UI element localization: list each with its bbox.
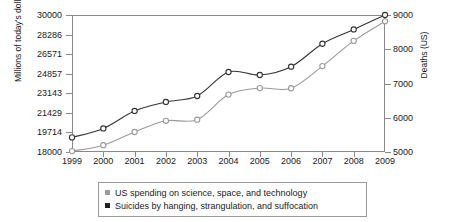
- x-tick-mark: [166, 152, 167, 157]
- series-line: [72, 15, 385, 137]
- right-tick-mark: [385, 49, 391, 50]
- x-tick-mark: [229, 152, 230, 157]
- right-tick-mark: [385, 118, 391, 119]
- data-point-marker: [382, 12, 387, 17]
- x-tick-label: 2009: [365, 156, 405, 166]
- data-point-marker: [382, 19, 387, 24]
- data-point-marker: [101, 143, 106, 148]
- chart-legend: US spending on science, space, and techn…: [98, 182, 367, 217]
- left-tick-label: 28286: [2, 30, 62, 40]
- data-point-marker: [132, 129, 137, 134]
- legend-item[interactable]: Suicides by hanging, strangulation, and …: [105, 199, 360, 212]
- legend-swatch-icon: [105, 203, 110, 208]
- data-point-marker: [257, 86, 262, 91]
- series-suicides: [69, 12, 387, 140]
- left-tick-label: 26571: [2, 49, 62, 59]
- x-tick-mark: [354, 152, 355, 157]
- series-spending: [69, 19, 387, 154]
- legend-label: Suicides by hanging, strangulation, and …: [115, 201, 318, 211]
- legend-swatch-icon: [105, 190, 110, 195]
- data-point-marker: [351, 38, 356, 43]
- data-point-marker: [351, 27, 356, 32]
- left-tick-label: 21429: [2, 108, 62, 118]
- right-tick-label: 6000: [393, 113, 443, 123]
- x-tick-mark: [197, 152, 198, 157]
- data-point-marker: [163, 99, 168, 104]
- data-point-marker: [163, 118, 168, 123]
- left-tick-label: 23143: [2, 88, 62, 98]
- data-point-marker: [69, 149, 74, 154]
- plot-area: [72, 15, 385, 152]
- data-point-marker: [69, 135, 74, 140]
- legend-item[interactable]: US spending on science, space, and techn…: [105, 186, 360, 199]
- data-point-marker: [132, 108, 137, 113]
- series-layer: [72, 15, 385, 152]
- x-tick-mark: [322, 152, 323, 157]
- right-tick-label: 8000: [393, 44, 443, 54]
- data-point-marker: [195, 117, 200, 122]
- data-point-marker: [257, 72, 262, 77]
- data-point-marker: [289, 86, 294, 91]
- data-point-marker: [226, 69, 231, 74]
- x-tick-mark: [291, 152, 292, 157]
- left-tick-label: 30000: [2, 10, 62, 20]
- series-line: [72, 21, 385, 151]
- left-tick-label: 19714: [2, 127, 62, 137]
- data-point-marker: [101, 126, 106, 131]
- right-tick-mark: [385, 84, 391, 85]
- right-tick-mark: [385, 152, 391, 153]
- data-point-marker: [289, 64, 294, 69]
- chart-container: Millions of today's dollars Deaths (US) …: [0, 0, 451, 222]
- x-tick-mark: [135, 152, 136, 157]
- data-point-marker: [320, 41, 325, 46]
- data-point-marker: [320, 63, 325, 68]
- data-point-marker: [226, 92, 231, 97]
- x-tick-mark: [103, 152, 104, 157]
- legend-label: US spending on science, space, and techn…: [115, 188, 307, 198]
- right-tick-label: 9000: [393, 10, 443, 20]
- left-tick-label: 24857: [2, 69, 62, 79]
- x-tick-mark: [260, 152, 261, 157]
- right-tick-label: 7000: [393, 79, 443, 89]
- data-point-marker: [195, 93, 200, 98]
